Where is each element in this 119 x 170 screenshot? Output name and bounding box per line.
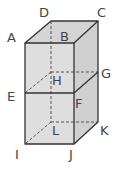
label-G: G bbox=[101, 66, 111, 81]
label-H: H bbox=[52, 73, 62, 88]
prism-diagram: D C A B H G E F L K I J bbox=[0, 0, 119, 170]
label-F: F bbox=[75, 96, 82, 111]
label-B: B bbox=[60, 29, 69, 44]
label-D: D bbox=[39, 5, 49, 20]
label-K: K bbox=[100, 123, 109, 138]
label-C: C bbox=[97, 5, 106, 20]
label-I: I bbox=[15, 147, 19, 162]
label-L: L bbox=[52, 123, 60, 138]
label-A: A bbox=[7, 30, 16, 45]
label-E: E bbox=[7, 89, 15, 104]
label-J: J bbox=[68, 147, 73, 162]
